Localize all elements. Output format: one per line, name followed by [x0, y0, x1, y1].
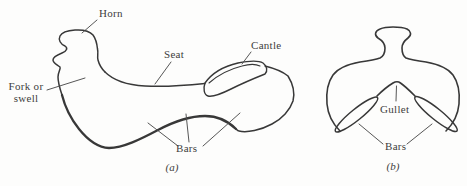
cantle-outline: [204, 61, 267, 96]
fork-leader-line: [47, 78, 85, 90]
saddle-diagram-art: [0, 0, 467, 186]
panel-b-caption: (b): [380, 160, 406, 172]
cantle-label: Cantle: [251, 40, 282, 51]
bars-b-leader-left: [359, 124, 383, 144]
bars-b-label: Bars: [385, 141, 406, 152]
panel-b-drawing: [327, 27, 461, 144]
bar-right-ellipse: [412, 93, 461, 136]
horn-label: Horn: [99, 8, 123, 19]
fork-or-swell-label: Fork or swell: [4, 81, 48, 104]
saddle-parts-figure: Horn Seat Cantle Fork or swell Bars (a) …: [0, 0, 467, 186]
gullet-leader-line: [396, 86, 397, 101]
seat-leader-line: [155, 62, 171, 84]
bars-b-leader-right: [407, 124, 432, 144]
bars-a-label: Bars: [176, 143, 197, 154]
panel-a-caption: (a): [159, 161, 185, 173]
rear-skirt-outline: [236, 66, 294, 132]
horn-leader-line: [82, 20, 97, 33]
gullet-label: Gullet: [380, 104, 409, 115]
cantle-inner-edge: [209, 65, 260, 84]
fork-label-line1: Fork or: [9, 80, 44, 92]
fork-label-line2: swell: [14, 92, 39, 104]
seat-label: Seat: [164, 49, 184, 60]
